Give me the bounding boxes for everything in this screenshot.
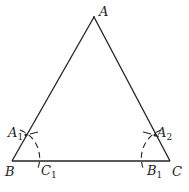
arc-tick-A1 bbox=[30, 132, 38, 134]
label-C1: C1 bbox=[41, 163, 57, 180]
side-AB bbox=[12, 17, 94, 161]
triangle bbox=[12, 17, 170, 161]
label-B1: B1 bbox=[146, 163, 162, 180]
label-A: A bbox=[98, 4, 108, 19]
label-C: C bbox=[172, 164, 182, 179]
label-A2: A2 bbox=[156, 125, 172, 142]
triangle-diagram: A B C A1 A2 C1 B1 bbox=[0, 0, 189, 192]
point-A1 bbox=[25, 134, 28, 137]
point-A bbox=[93, 16, 95, 18]
label-A1: A1 bbox=[7, 125, 23, 142]
arc-tick-A2 bbox=[143, 132, 151, 134]
label-B: B bbox=[4, 164, 15, 179]
